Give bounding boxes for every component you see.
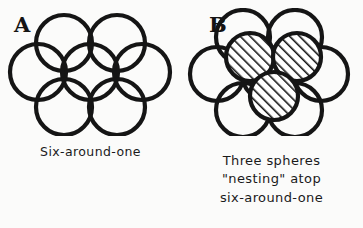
panel-a-artwork (0, 8, 181, 136)
sphere-plain (36, 79, 92, 135)
figure-root: A Six-around-one (0, 0, 363, 228)
panel-a-caption: Six-around-one (0, 143, 181, 161)
panel-b: B (181, 0, 362, 228)
sphere-hatched (250, 72, 298, 120)
caption-line: Six-around-one (0, 143, 181, 161)
caption-line: "nesting" atop (181, 170, 362, 188)
panel-b-artwork (181, 8, 362, 136)
panel-b-caption: Three spheres "nesting" atop six-around-… (181, 152, 362, 207)
caption-line: six-around-one (181, 189, 362, 207)
panel-a: A Six-around-one (0, 0, 181, 228)
caption-line: Three spheres (181, 152, 362, 170)
